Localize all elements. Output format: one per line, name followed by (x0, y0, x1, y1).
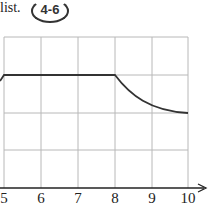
svg-text:9: 9 (148, 190, 156, 203)
grid (4, 37, 188, 188)
svg-text:5: 5 (0, 190, 8, 203)
svg-text:7: 7 (74, 190, 82, 203)
x-axis (0, 184, 206, 192)
x-tick-labels: 5 6 7 8 9 10 (0, 190, 195, 203)
line-chart: 5 6 7 8 9 10 (0, 0, 210, 203)
data-curve (0, 75, 188, 113)
svg-text:8: 8 (111, 190, 119, 203)
svg-text:10: 10 (181, 190, 196, 203)
svg-text:6: 6 (37, 190, 45, 203)
